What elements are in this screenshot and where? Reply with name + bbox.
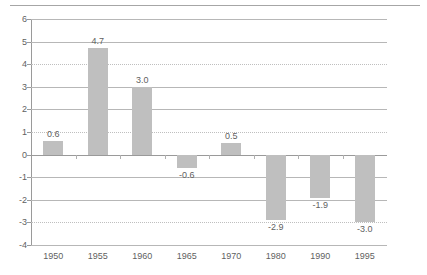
y-tick-label: 3 [3,82,27,92]
bar-value-label: 4.7 [76,36,121,46]
bar[interactable] [132,87,152,155]
bar-value-label: 0.5 [209,131,254,141]
bar-value-label: 3.0 [120,75,165,85]
x-tick-label: 1955 [76,251,121,262]
x-tick-label: 1950 [31,251,76,262]
bar-value-label: 0.6 [31,129,76,139]
y-tick-label: -3 [3,217,27,227]
x-tick-label: 1990 [298,251,343,262]
y-tick-label: 6 [3,14,27,24]
plot-area: 0.64.73.0-0.60.5-2.9-1.9-3.0 [31,19,387,245]
gridline-4 [31,64,387,65]
x-tick-mark [209,155,210,159]
bar-value-label: -2.9 [254,222,299,232]
x-tick-label: 1980 [254,251,299,262]
x-tick-mark [343,155,344,159]
y-axis-label-group: 6543210-1-2-3-4 [0,19,27,245]
y-tick-label: -4 [3,240,27,250]
y-tick-label: 0 [3,150,27,160]
gridline--4 [31,245,387,246]
y-tick-label: 5 [3,37,27,47]
y-tick-label: 1 [3,127,27,137]
y-tick-label: -1 [3,172,27,182]
bar[interactable] [355,155,375,223]
bar-value-label: -0.6 [165,170,210,180]
x-axis-label-group: 19501955196019651970198019901995 [31,251,387,265]
bar[interactable] [266,155,286,221]
x-tick-mark [76,155,77,159]
gridline--1 [31,177,387,178]
x-tick-label: 1960 [120,251,165,262]
bar[interactable] [88,48,108,154]
bar[interactable] [310,155,330,198]
bar[interactable] [43,141,63,155]
x-tick-mark [120,155,121,159]
gridline-3 [31,87,387,88]
bar[interactable] [221,143,241,154]
x-tick-mark [298,155,299,159]
gridline-6 [31,19,387,20]
x-tick-mark [165,155,166,159]
gridline-2 [31,109,387,110]
bar-value-label: -3.0 [343,224,388,234]
y-tick-label: 2 [3,104,27,114]
y-tick-label: -2 [3,195,27,205]
x-tick-mark [254,155,255,159]
x-tick-label: 1995 [343,251,388,262]
x-tick-label: 1965 [165,251,210,262]
x-tick-label: 1970 [209,251,254,262]
bar-value-label: -1.9 [298,200,343,210]
gridline--3 [31,222,387,223]
bar[interactable] [177,155,197,169]
y-tick-label: 4 [3,59,27,69]
top-horizontal-rule [10,5,420,6]
chart-figure: 6543210-1-2-3-4 0.64.73.0-0.60.5-2.9-1.9… [0,0,427,275]
